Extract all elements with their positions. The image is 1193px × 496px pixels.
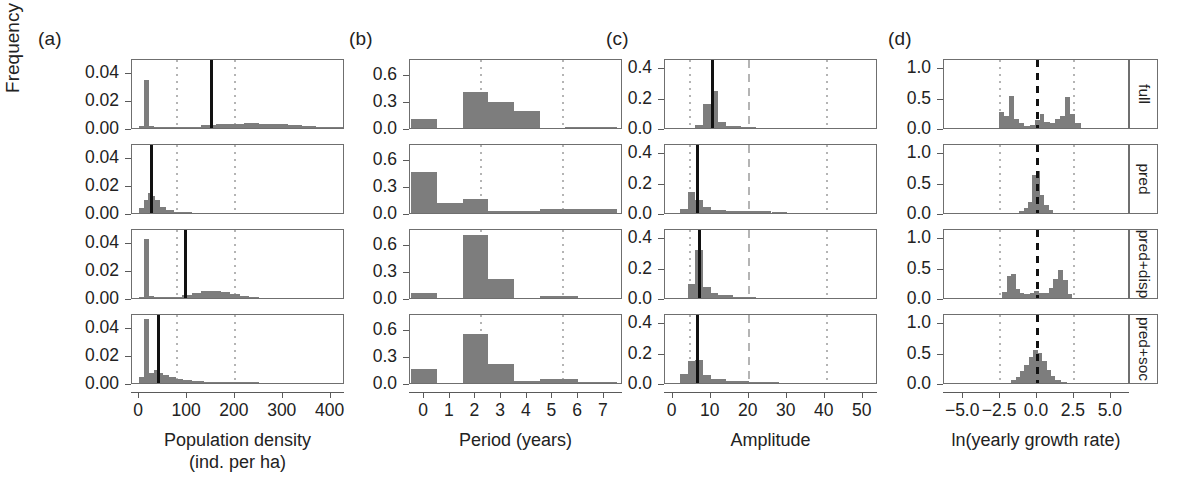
histogram-bar — [169, 377, 176, 383]
x-tick-mark — [449, 392, 450, 398]
y-tick-mark — [125, 214, 131, 215]
histogram-bar — [540, 296, 578, 298]
histogram-bar — [216, 124, 230, 128]
histogram-bar — [488, 364, 514, 383]
histogram-bar — [259, 124, 273, 128]
observed-value-line — [184, 230, 187, 298]
y-tick-label: 0.02 — [47, 177, 119, 195]
histogram-bar — [154, 127, 168, 128]
x-tick-label: 50 — [822, 402, 902, 420]
histogram-bar — [288, 125, 302, 128]
observed-value-line — [711, 60, 714, 128]
y-tick-mark — [658, 214, 664, 215]
plot-panel-d-pred — [943, 144, 1129, 214]
reference-line-dashed-gray — [748, 60, 750, 128]
plot-panel-d-full — [943, 59, 1129, 129]
histogram-bar — [711, 379, 726, 383]
histogram-bar — [183, 380, 192, 383]
y-tick-mark — [658, 184, 664, 185]
x-tick-mark — [423, 392, 424, 398]
histogram-bar — [726, 381, 749, 383]
reference-line-dotted-1 — [826, 230, 828, 298]
y-tick-mark — [125, 186, 131, 187]
y-tick-mark — [403, 330, 409, 331]
y-tick-label: 0.5 — [859, 90, 931, 108]
x-axis-line-c — [664, 392, 877, 393]
y-tick-label: 0.4 — [580, 144, 652, 162]
histogram-bar — [703, 375, 711, 383]
y-tick-mark — [403, 102, 409, 103]
histogram-bar — [192, 293, 202, 298]
reference-line-dashed-black — [1036, 145, 1039, 213]
histogram-bar — [1049, 210, 1054, 213]
x-tick-mark — [330, 392, 331, 398]
histogram-bar — [204, 382, 218, 383]
histogram-bar — [144, 239, 149, 298]
y-tick-label: 0.2 — [580, 260, 652, 278]
y-tick-mark — [125, 158, 131, 159]
strip-label-pred: pred — [1129, 144, 1158, 214]
y-tick-label: 0.0 — [580, 120, 652, 138]
x-tick-mark — [748, 392, 749, 398]
y-tick-mark — [125, 101, 131, 102]
reference-line-dotted-1 — [234, 315, 236, 383]
reference-line-dotted-1 — [562, 60, 564, 128]
panel-letter-d: (d) — [888, 28, 912, 50]
y-tick-mark — [937, 184, 943, 185]
histogram-bar — [168, 127, 187, 128]
reference-line-dashed-gray — [748, 315, 750, 383]
x-tick-mark — [824, 392, 825, 398]
y-tick-label: 0.0 — [325, 290, 397, 308]
y-tick-mark — [125, 384, 131, 385]
histogram-bar — [703, 104, 711, 128]
histogram-bar — [235, 382, 259, 383]
histogram-bar — [463, 334, 489, 383]
reference-line-dotted-1 — [1073, 315, 1075, 383]
y-tick-label: 0.0 — [580, 290, 652, 308]
observed-value-line — [210, 60, 213, 128]
histogram-bar — [302, 126, 316, 128]
y-tick-label: 0.3 — [325, 93, 397, 111]
y-tick-label: 1.0 — [859, 314, 931, 332]
x-tick-mark — [710, 392, 711, 398]
y-tick-mark — [403, 160, 409, 161]
strip-label-text: full — [1135, 84, 1153, 104]
strip-label-pred+disp: pred+disp — [1129, 229, 1158, 299]
histogram-bar — [411, 119, 437, 128]
y-tick-mark — [937, 153, 943, 154]
reference-line-dashed-gray — [748, 230, 750, 298]
x-tick-mark — [526, 392, 527, 398]
x-tick-mark — [672, 392, 673, 398]
histogram-bar — [273, 124, 287, 128]
plot-panel-c-pred — [664, 144, 877, 214]
y-tick-mark — [937, 384, 943, 385]
y-tick-label: 0.5 — [859, 175, 931, 193]
y-tick-label: 0.6 — [325, 151, 397, 169]
y-tick-label: 0.04 — [47, 64, 119, 82]
reference-line-dashed-black — [1036, 230, 1039, 298]
histogram-bar — [230, 294, 240, 298]
panel-letter-c: (c) — [606, 28, 629, 50]
reference-line-dotted-0 — [176, 315, 178, 383]
y-tick-label: 0.02 — [47, 262, 119, 280]
y-tick-mark — [937, 68, 943, 69]
reference-line-dotted-0 — [176, 60, 178, 128]
y-tick-mark — [937, 299, 943, 300]
plot-panel-a-full — [131, 59, 344, 129]
histogram-bar — [192, 381, 204, 383]
x-tick-mark — [282, 392, 283, 398]
histogram-bar — [1061, 382, 1067, 383]
x-tick-mark — [962, 392, 963, 398]
y-tick-label: 0.04 — [47, 319, 119, 337]
y-tick-mark — [658, 99, 664, 100]
reference-line-dotted-1 — [562, 230, 564, 298]
y-tick-label: 0.04 — [47, 234, 119, 252]
x-tick-mark — [1036, 392, 1037, 398]
y-tick-mark — [658, 68, 664, 69]
histogram-bar — [182, 212, 192, 213]
histogram-bar — [772, 212, 787, 213]
y-tick-mark — [658, 299, 664, 300]
y-tick-label: 0.5 — [859, 345, 931, 363]
histogram-bar — [249, 297, 259, 298]
histogram-bar — [688, 361, 696, 383]
